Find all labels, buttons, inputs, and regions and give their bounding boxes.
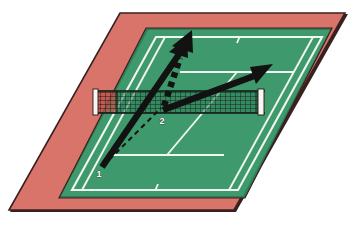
net-post-left: [93, 89, 98, 115]
court-svg-canvas: 1 2: [0, 0, 354, 225]
point-label-one: 1: [96, 169, 101, 179]
tennis-court-diagram: 1 2: [0, 0, 354, 225]
net-post-right: [258, 89, 264, 115]
point-label-two: 2: [159, 116, 164, 126]
